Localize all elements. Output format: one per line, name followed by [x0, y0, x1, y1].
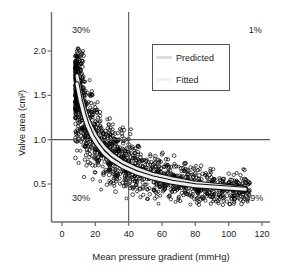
- y-tick-label: 1.0: [18, 135, 46, 145]
- y-tick-label: 0.5: [18, 179, 46, 189]
- legend-item-predicted: Predicted: [153, 46, 229, 69]
- legend-swatch-fitted: [156, 78, 172, 81]
- quadrant-label-top-right: 1%: [249, 25, 262, 35]
- quadrant-label-bottom-left: 30%: [72, 193, 90, 203]
- x-tick-label: 60: [157, 229, 167, 239]
- y-tick-label: 1.5: [18, 90, 46, 100]
- x-tick-label: 40: [124, 229, 134, 239]
- x-tick-label: 0: [59, 229, 64, 239]
- y-tick-label: 2.0: [18, 46, 46, 56]
- legend-label-fitted: Fitted: [176, 75, 199, 85]
- quadrant-label-top-left: 30%: [72, 25, 90, 35]
- legend-label-predicted: Predicted: [176, 53, 214, 63]
- legend-swatch-predicted: [156, 56, 172, 59]
- x-tick-label: 20: [90, 229, 100, 239]
- x-tick-label: 120: [254, 229, 269, 239]
- x-tick-label: 80: [190, 229, 200, 239]
- quadrant-label-bottom-right: 39%: [245, 193, 263, 203]
- chart-legend: Predicted Fitted: [152, 44, 230, 91]
- x-tick-label: 100: [221, 229, 236, 239]
- legend-item-fitted: Fitted: [153, 68, 229, 91]
- x-axis-title: Mean pressure gradient (mmHg): [51, 251, 271, 262]
- scatter-plot-figure: Valve area (cm²) Mean pressure gradient …: [0, 0, 286, 273]
- y-axis-title: Valve area (cm²): [17, 63, 27, 183]
